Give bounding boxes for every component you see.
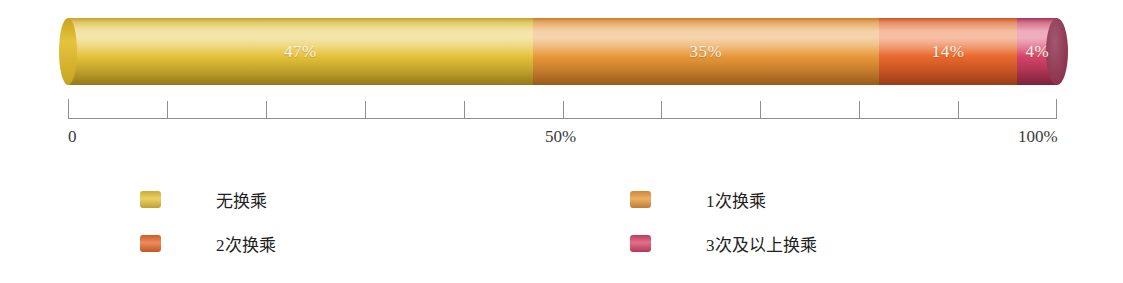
axis-tick — [365, 101, 366, 119]
segment-value-label: 4% — [1017, 18, 1057, 85]
axis-label-end: 100% — [1018, 127, 1058, 147]
legend-swatch-icon — [630, 235, 651, 252]
axis-tick — [68, 99, 69, 119]
axis-label-start: 0 — [68, 127, 77, 147]
legend-item-no-transfer[interactable]: 无换乘 — [140, 186, 267, 212]
axis-tick — [958, 101, 959, 119]
axis-tick — [859, 101, 860, 119]
segment-value-label: 14% — [879, 18, 1017, 85]
axis-tick — [1056, 99, 1057, 119]
legend: 无换乘 1次换乘 2次换乘 3次及以上换乘 — [0, 178, 1123, 268]
legend-swatch-icon — [140, 191, 161, 208]
axis-tick — [661, 101, 662, 119]
legend-item-label: 无换乘 — [216, 187, 267, 212]
legend-swatch-icon — [630, 191, 651, 208]
axis-tick — [760, 101, 761, 119]
legend-item-label: 3次及以上换乘 — [706, 231, 817, 256]
legend-item-label: 1次换乘 — [706, 187, 766, 212]
segment-value-label: 35% — [533, 18, 879, 85]
axis-tick — [167, 101, 168, 119]
legend-item-one-transfer[interactable]: 1次换乘 — [630, 186, 766, 212]
cylinder-bar: 47% 35% 14% 4% — [68, 18, 1057, 85]
axis-tick — [563, 101, 564, 119]
segment-value-label: 47% — [68, 18, 533, 85]
axis-tick — [266, 101, 267, 119]
legend-item-label: 2次换乘 — [216, 231, 276, 256]
legend-item-two-transfers[interactable]: 2次换乘 — [140, 230, 276, 256]
stacked-bar-chart: 47% 35% 14% 4% 0 50% 100% 无换乘 1次换乘 2次换乘 … — [0, 0, 1123, 283]
axis-label-mid: 50% — [545, 127, 576, 147]
legend-item-three-plus-transfers[interactable]: 3次及以上换乘 — [630, 230, 817, 256]
legend-swatch-icon — [140, 235, 161, 252]
axis-tick — [464, 101, 465, 119]
